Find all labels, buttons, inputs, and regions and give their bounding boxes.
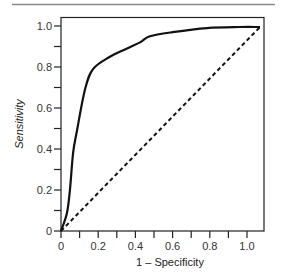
x-axis-ticks: 00.20.40.60.81.0: [58, 231, 255, 252]
y-axis-ticks: 00.20.40.60.81.0: [37, 20, 61, 237]
x-tick-label: 0: [58, 240, 64, 252]
y-tick-label: 0.8: [37, 61, 52, 73]
x-tick-label: 0.4: [128, 240, 143, 252]
x-tick-label: 0.8: [202, 240, 217, 252]
y-tick-label: 0.2: [37, 184, 52, 196]
x-tick-label: 0.2: [91, 240, 106, 252]
x-axis-title: 1 – Specificity: [136, 256, 204, 268]
series-layer: [61, 27, 260, 231]
y-tick-label: 0.4: [37, 143, 52, 155]
y-tick-label: 1.0: [37, 20, 52, 32]
x-tick-label: 1.0: [239, 240, 254, 252]
y-axis-title: Sensitivity: [13, 98, 25, 149]
chance-diagonal-line: [61, 27, 260, 231]
y-tick-label: 0.6: [37, 102, 52, 114]
x-tick-label: 0.6: [165, 240, 180, 252]
y-tick-label: 0: [46, 225, 52, 237]
roc-chart: 00.20.40.60.81.0 00.20.40.60.81.0 1 – Sp…: [0, 0, 281, 279]
